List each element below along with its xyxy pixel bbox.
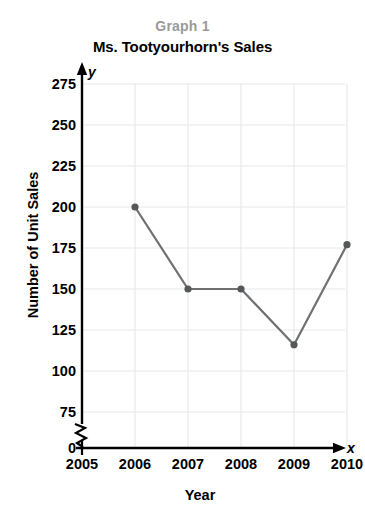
x-axis-letter: x	[347, 440, 355, 456]
chart-figure: Graph 1 Ms. Tootyourhorn's Sales Number …	[0, 0, 365, 527]
x-tick-label: 2009	[266, 456, 322, 472]
x-tick-label: 2008	[213, 456, 269, 472]
x-tick-label: 2010	[319, 456, 365, 472]
x-tick-label: 2006	[107, 456, 163, 472]
y-axis-letter: y	[88, 64, 96, 80]
x-tick-labels: 200520062007200820092010	[0, 0, 365, 527]
x-tick-label: 2005	[54, 456, 110, 472]
x-tick-label: 2007	[160, 456, 216, 472]
